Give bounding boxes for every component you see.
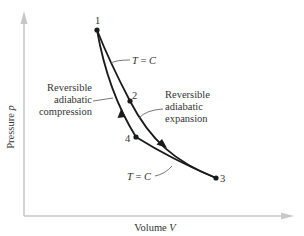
isotherm-label-lower: T = C: [127, 171, 152, 182]
y-axis-arrow-icon: [21, 11, 28, 24]
y-axis-label: Pressure p: [5, 105, 16, 148]
compression-label-line-2: adiabatic: [54, 94, 92, 105]
point-label-4: 4: [125, 133, 131, 144]
point-label-2: 2: [132, 90, 137, 101]
leader-compression: [93, 98, 113, 101]
compression-arrow-icon: [118, 108, 126, 118]
expansion-label-line-1: Reversible: [165, 89, 210, 100]
leader-lower-isotherm: [155, 166, 172, 176]
x-axis-arrow-icon: [281, 213, 294, 220]
compression-label-line-1: Reversible: [47, 82, 92, 93]
point-3: [213, 175, 218, 180]
pv-diagram: Pressure p Volume V 1 2 3 4 T = C T = C …: [0, 0, 304, 236]
isotherm-label-upper: T = C: [132, 55, 157, 66]
leader-expansion: [139, 109, 163, 118]
expansion-label-line-3: expansion: [165, 113, 208, 124]
x-axis-label: Volume V: [134, 222, 177, 233]
point-label-3: 3: [220, 173, 225, 184]
expansion-label-line-2: adiabatic: [165, 101, 203, 112]
leader-lines: [93, 60, 172, 176]
point-4: [133, 134, 138, 139]
point-label-1: 1: [95, 15, 100, 26]
compression-label-line-3: compression: [39, 106, 93, 117]
expansion-label: Reversible adiabatic expansion: [165, 89, 210, 124]
point-1: [94, 27, 99, 32]
leader-upper-isotherm: [111, 60, 130, 63]
compression-label: Reversible adiabatic compression: [39, 82, 93, 117]
